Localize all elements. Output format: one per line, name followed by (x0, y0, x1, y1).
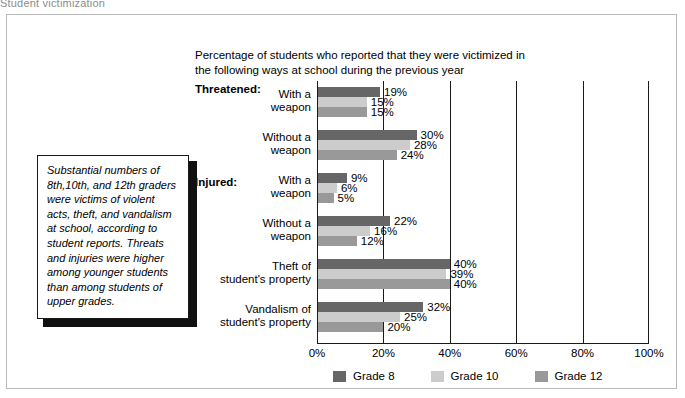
bar-grade-10 (317, 140, 410, 150)
bar-grade-8 (317, 130, 417, 140)
category-label: Without aweapon (146, 217, 311, 243)
bar-grade-10 (317, 97, 367, 107)
bar-grade-12 (317, 193, 334, 203)
legend-item[interactable]: Grade 8 (333, 370, 395, 382)
bar-grade-12 (317, 107, 367, 117)
chart-title-line-2: the following ways at school during the … (195, 63, 615, 78)
page-heading: Student victimization (0, 0, 105, 9)
category-label-line-1: Without a (146, 131, 311, 144)
legend-item[interactable]: Grade 10 (431, 370, 499, 382)
bar-group: 19%15%15% (317, 87, 649, 117)
category-label-line-2: weapon (146, 187, 311, 200)
category-label-line-1: Theft of (146, 260, 311, 273)
bar-value-label: 24% (401, 150, 424, 160)
bar-value-label: 40% (454, 279, 477, 289)
x-tick-20: 20% (372, 347, 395, 359)
bar-group: 9%6%5% (317, 173, 649, 203)
x-tick-80: 80% (571, 347, 594, 359)
category-label: With aweapon (146, 88, 311, 114)
category-label-line-2: weapon (146, 101, 311, 114)
bar-group: 40%39%40% (317, 259, 649, 289)
x-tick-100: 100% (634, 347, 663, 359)
bar-grade-12 (317, 150, 397, 160)
bar-grade-12 (317, 236, 357, 246)
category-label-line-2: student's property (146, 316, 311, 329)
bar-group: 22%16%12% (317, 216, 649, 246)
bar-grade-10 (317, 269, 446, 279)
legend-label: Grade 10 (451, 370, 499, 382)
legend-label: Grade 12 (555, 370, 603, 382)
bar-value-label: 5% (338, 193, 355, 203)
category-label: Theft ofstudent's property (146, 260, 311, 286)
legend-label: Grade 8 (353, 370, 395, 382)
bar-grade-10 (317, 183, 337, 193)
legend-swatch-icon (333, 371, 346, 382)
chart-title-line-1: Percentage of students who reported that… (195, 48, 615, 63)
category-label-line-1: Without a (146, 217, 311, 230)
category-label-line-1: With a (146, 88, 311, 101)
legend-swatch-icon (431, 371, 444, 382)
category-label: Without aweapon (146, 131, 311, 157)
bar-grade-8 (317, 259, 450, 269)
bar-value-label: 12% (361, 236, 384, 246)
legend-swatch-icon (535, 371, 548, 382)
bar-group: 30%28%24% (317, 130, 649, 160)
plot-area: 19%15%15%30%28%24%9%6%5%22%16%12%40%39%4… (317, 81, 649, 344)
category-label-line-1: With a (146, 174, 311, 187)
x-tick-60: 60% (505, 347, 528, 359)
category-label: Vandalism ofstudent's property (146, 303, 311, 329)
category-label-line-2: student's property (146, 273, 311, 286)
chart-legend: Grade 8Grade 10Grade 12 (333, 370, 638, 382)
bar-value-label: 22% (394, 216, 417, 226)
chart-title: Percentage of students who reported that… (195, 48, 615, 77)
bar-grade-12 (317, 279, 450, 289)
bar-value-label: 20% (387, 322, 410, 332)
x-tick-40: 40% (438, 347, 461, 359)
figure-frame: Percentage of students who reported that… (6, 14, 677, 389)
bar-group: 32%25%20% (317, 302, 649, 332)
bar-grade-12 (317, 322, 383, 332)
x-tick-0: 0% (309, 347, 326, 359)
category-label-line-2: weapon (146, 230, 311, 243)
legend-item[interactable]: Grade 12 (535, 370, 603, 382)
category-label: With aweapon (146, 174, 311, 200)
category-label-line-2: weapon (146, 144, 311, 157)
bar-value-label: 15% (371, 107, 394, 117)
category-label-line-1: Vandalism of (146, 303, 311, 316)
bar-value-label: 32% (427, 302, 450, 312)
